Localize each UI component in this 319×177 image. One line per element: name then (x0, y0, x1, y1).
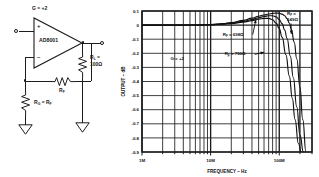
circuit-gain-label: G = +2 (32, 6, 47, 11)
svg-text:RF = 750Ω: RF = 750Ω (225, 51, 246, 57)
resistor-rg-symbol (20, 92, 31, 116)
svg-text:RF = 698Ω: RF = 698Ω (223, 32, 244, 38)
svg-text:OUTPUT – dB: OUTPUT – dB (121, 66, 126, 97)
svg-text:-0.1: -0.1 (131, 37, 139, 42)
svg-text:-0.6: -0.6 (131, 107, 139, 112)
wire-rg-top (25, 81, 26, 93)
svg-text:1M: 1M (139, 158, 145, 163)
wire-rl-top (82, 43, 83, 55)
output-terminal (100, 41, 104, 45)
resistor-rf-label: RF (59, 88, 65, 94)
svg-text:G = +2: G = +2 (170, 56, 184, 61)
svg-text:-0.9: -0.9 (131, 150, 139, 155)
plot-tick-labels: 0.10-0.1-0.2-0.3-0.4-0.5-0.6-0.7-0.8-0.9… (131, 9, 312, 163)
resistor-rf-symbol (52, 76, 76, 87)
plot-svg: 0.10-0.1-0.2-0.3-0.4-0.5-0.6-0.7-0.8-0.9… (118, 2, 319, 177)
figure-root: G = +2 + – AD8001 RF (0, 0, 319, 177)
svg-text:100M: 100M (274, 158, 285, 163)
wire-rl-bottom (82, 78, 83, 123)
svg-text:10M: 10M (206, 158, 215, 163)
svg-text:FREQUENCY – Hz: FREQUENCY – Hz (207, 169, 247, 174)
ground-symbol-rg (18, 124, 33, 135)
circuit-diagram: G = +2 + – AD8001 RF (0, 0, 122, 177)
frequency-response-plot: 0.10-0.1-0.2-0.3-0.4-0.5-0.6-0.7-0.8-0.9… (118, 2, 319, 177)
svg-text:-0.4: -0.4 (131, 79, 139, 84)
resistor-rg-label: RG = RF (34, 100, 52, 106)
svg-text:649Ω: 649Ω (287, 17, 298, 22)
resistor-rl-symbol (77, 54, 88, 78)
svg-text:-0.2: -0.2 (131, 51, 139, 56)
opamp-device-label: AD8001 (39, 38, 58, 43)
ground-symbol-rl (75, 122, 90, 133)
wire-minus-down (25, 57, 26, 81)
wire-input-to-plus (19, 31, 34, 32)
svg-text:0.1: 0.1 (133, 9, 140, 14)
svg-text:-0.3: -0.3 (131, 65, 139, 70)
opamp-minus-label: – (37, 54, 40, 60)
svg-text:0: 0 (137, 23, 140, 28)
svg-text:-0.8: -0.8 (131, 136, 139, 141)
opamp-plus-label: + (37, 23, 41, 29)
resistor-rl-label-line2: 100Ω (90, 62, 102, 67)
svg-text:-0.5: -0.5 (131, 93, 139, 98)
wire-minus-left (25, 57, 34, 58)
input-terminal (14, 29, 18, 33)
svg-text:-0.7: -0.7 (131, 121, 139, 126)
